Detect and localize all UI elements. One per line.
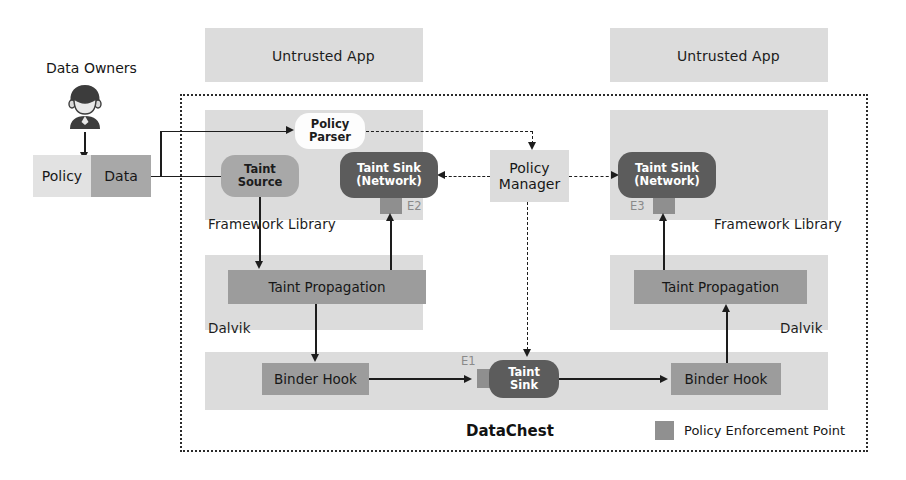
manager-to-core-sink-arrowhead (523, 349, 531, 357)
left-source-to-propagation-line (259, 197, 261, 262)
data-box: Data (91, 155, 151, 197)
manager-to-right-sink-dash (569, 176, 614, 177)
data-owners-label: Data Owners (46, 60, 137, 76)
left-propagation-to-binder-line (315, 304, 317, 355)
right-binder-hook-label: Binder Hook (685, 371, 768, 387)
left-taint-sink-network-node: Taint Sink (Network) (340, 152, 438, 198)
core-sink-to-right-binder-line (559, 378, 663, 380)
manager-to-core-sink-dash (527, 202, 528, 350)
left-binder-to-core-sink-arrowhead (464, 375, 472, 383)
left-taint-propagation-label: Taint Propagation (268, 279, 385, 295)
right-binder-to-propagation-arrowhead (722, 304, 730, 312)
core-pep-label-e1: E1 (461, 354, 476, 368)
left-taint-sink-label-line2: (Network) (356, 175, 421, 188)
manager-to-left-sink-dash (444, 176, 490, 177)
policy-parser-node: Policy Parser (295, 113, 365, 149)
policy-manager-label-line2: Manager (499, 176, 560, 192)
left-pep-label-e2: E2 (407, 199, 422, 213)
data-to-parser-arrowhead (286, 126, 294, 134)
policy-box: Policy (33, 155, 91, 197)
left-framework-library-label: Framework Library (208, 216, 336, 232)
data-to-parser-line (160, 131, 288, 133)
right-dalvik-label: Dalvik (780, 320, 823, 336)
left-dalvik-label: Dalvik (208, 320, 251, 336)
right-untrusted-app-label: Untrusted App (677, 48, 780, 64)
core-taint-sink-label-line2: Sink (508, 379, 540, 392)
policy-parser-label-line2: Parser (309, 131, 351, 144)
right-taint-sink-network-node: Taint Sink (Network) (618, 152, 716, 198)
left-taint-source-label-line2: Source (238, 176, 283, 189)
right-binder-hook-node: Binder Hook (671, 363, 781, 395)
core-sink-to-right-binder-arrowhead (660, 375, 668, 383)
legend-label-policy-enforcement-point: Policy Enforcement Point (684, 423, 845, 438)
left-propagation-to-binder-arrowhead (311, 354, 319, 362)
right-pep-tab-e3 (653, 196, 675, 214)
person-icon (62, 82, 108, 130)
legend-swatch-policy-enforcement-point (655, 421, 674, 440)
parser-to-manager-dash-h (366, 131, 533, 132)
right-taint-sink-label-line2: (Network) (634, 175, 699, 188)
left-binder-hook-node: Binder Hook (262, 363, 369, 395)
right-taint-propagation-node: Taint Propagation (634, 270, 807, 304)
policy-manager-node: Policy Manager (490, 150, 569, 202)
left-taint-source-node: Taint Source (221, 155, 299, 197)
left-taint-propagation-node: Taint Propagation (228, 270, 426, 304)
core-taint-sink-node: Taint Sink (489, 360, 559, 398)
data-to-parser-riser (160, 131, 162, 176)
left-binder-to-core-sink-line (369, 378, 467, 380)
left-source-to-propagation-arrowhead (255, 261, 263, 269)
right-pep-label-e3: E3 (630, 199, 645, 213)
left-propagation-to-sink-line (390, 220, 392, 272)
policy-manager-label-line1: Policy (499, 160, 560, 176)
manager-to-left-sink-arrowhead (437, 171, 445, 179)
right-binder-to-propagation-line (726, 311, 728, 363)
owner-to-data-line (84, 132, 86, 154)
right-framework-library-label: Framework Library (714, 216, 842, 232)
left-untrusted-app-label: Untrusted App (272, 48, 375, 64)
architecture-diagram: Data Owners Policy Data Policy Parser T (0, 0, 906, 480)
right-propagation-to-sink-line (663, 220, 665, 272)
right-taint-propagation-label: Taint Propagation (662, 279, 779, 295)
right-propagation-to-sink-arrowhead (659, 213, 667, 221)
left-binder-hook-label: Binder Hook (274, 371, 357, 387)
left-propagation-to-sink-arrowhead (386, 213, 394, 221)
left-pep-tab-e2 (380, 196, 402, 214)
datachest-system-label: DataChest (466, 422, 554, 440)
parser-to-manager-arrowhead (528, 142, 536, 150)
